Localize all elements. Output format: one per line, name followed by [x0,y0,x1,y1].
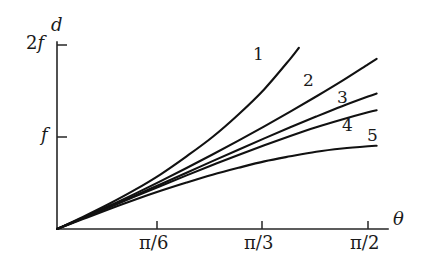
x-tick-label-pi-3: π/3 [244,234,273,252]
curve-label-5: 5 [367,127,378,144]
curve-label-1: 1 [253,46,264,63]
x-tick-label-pi-2: π/2 [350,234,379,252]
y-tick-label-f: f [41,126,48,144]
curve-label-4: 4 [342,117,353,134]
x-axis-title: θ [393,210,404,228]
y-tick-label-2f-symbol: f [37,32,44,53]
y-tick-label-2f-prefix: 2 [26,32,37,53]
curves-group [57,48,377,229]
x-tick-label-pi-6: π/6 [139,234,168,252]
figure-container: d θ 2f f π/6 π/3 π/2 1 2 3 4 5 [0,0,423,275]
curve-2 [57,59,377,229]
axes-group [57,42,388,229]
curve-label-3: 3 [337,89,348,106]
y-tick-label-f-symbol: f [41,124,48,145]
curve-label-2: 2 [303,72,314,89]
y-axis-title: d [51,16,63,34]
y-tick-label-2f: 2f [26,34,44,52]
